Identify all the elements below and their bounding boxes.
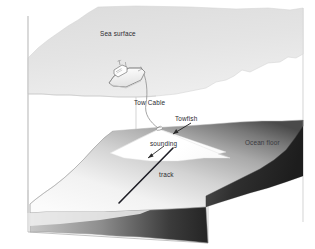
diagram-canvas [0, 0, 315, 249]
label-towfish: Towfish [175, 116, 197, 122]
label-sea-surface: Sea surface [100, 31, 136, 37]
label-tow-cable: Tow Cable [134, 100, 165, 106]
sea-surface-plane [28, 6, 303, 97]
label-track: track [159, 172, 174, 178]
sonar-survey-diagram: Sea surface Tow Cable Towfish sounding O… [0, 0, 315, 249]
label-ocean-floor: Ocean floor [245, 140, 280, 146]
label-sounding: sounding [150, 141, 177, 147]
